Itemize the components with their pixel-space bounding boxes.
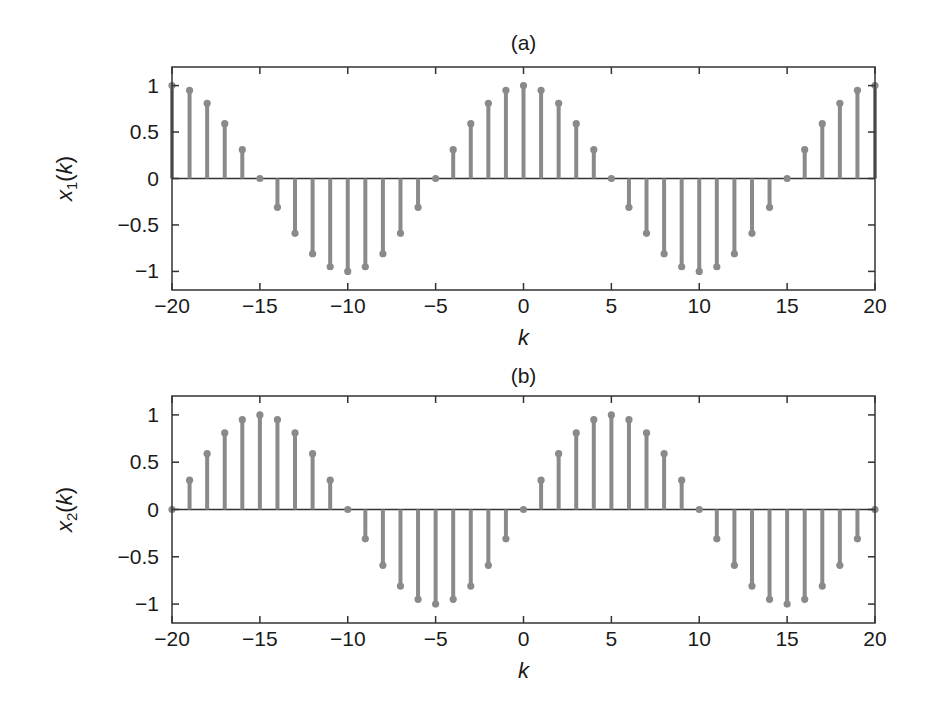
x-tick-label: −5 [424,627,448,650]
stem-marker [309,250,316,257]
stem-marker [836,562,843,569]
stem-marker [520,82,527,89]
y-label-arg: (k) [52,156,77,182]
x-tick-label: 0 [518,294,530,317]
x-tick-label: 20 [863,627,886,650]
stem-marker [291,429,298,436]
stem-marker [291,230,298,237]
stem-marker [309,450,316,457]
stem-marker [748,583,755,590]
stem-marker [327,263,334,270]
stem-marker [731,562,738,569]
stem-marker [573,120,580,127]
stem-marker [414,204,421,211]
stem-marker [678,477,685,484]
y-axis-label: x2(k) [52,487,80,533]
stem-marker [713,263,720,270]
y-tick-label: 1 [147,74,159,97]
stem-marker [537,477,544,484]
y-tick-label: −1 [135,259,159,282]
stem-marker [397,230,404,237]
y-axis-label: x1(k) [52,156,80,202]
y-label-sub: 2 [63,513,80,521]
y-tick-label: 0.5 [130,120,159,143]
x-tick-label: 10 [688,627,711,650]
stem-marker [661,450,668,457]
stem-marker [748,230,755,237]
stem-marker [801,146,808,153]
stem-marker [344,268,351,275]
stem-marker [643,429,650,436]
stem-marker [256,175,263,182]
stem-marker [713,535,720,542]
stem-marker [344,506,351,513]
x-tick-label: 5 [606,294,618,317]
x-tick-label: 20 [863,294,886,317]
stem-marker [432,175,439,182]
y-tick-label: −0.5 [118,545,159,568]
stem-marker [221,429,228,436]
x-tick-label: 0 [518,627,530,650]
x-tick-label: −15 [242,294,278,317]
stem-marker [256,411,263,418]
stem-marker [555,100,562,107]
stem-marker [731,250,738,257]
stem-marker [854,535,861,542]
stem-marker [625,416,632,423]
stem-marker [274,204,281,211]
y-label-paren-close: ) [52,156,77,163]
stem-marker [502,87,509,94]
stem-marker [766,204,773,211]
stem-marker [819,583,826,590]
stem-marker [485,100,492,107]
subplot-a: (a)−20−15−10−50510152010.50−0.5−1kx1(k) [52,31,887,350]
x-tick-label: 10 [688,294,711,317]
stem-marker [362,535,369,542]
stem-marker [502,535,509,542]
stem-marker [573,429,580,436]
y-tick-label: 1 [147,403,159,426]
stem-marker [555,450,562,457]
stem-marker [450,596,457,603]
stem-marker [274,416,281,423]
stem-marker [397,583,404,590]
stem-marker [520,506,527,513]
plot-title: (a) [511,31,537,54]
figure: (a)−20−15−10−50510152010.50−0.5−1kx1(k) … [0,0,932,715]
stem-marker [590,416,597,423]
x-tick-label: 5 [606,627,618,650]
stem-marker [801,596,808,603]
stem-marker [450,146,457,153]
subplot-b: (b)−20−15−10−50510152010.50−0.5−1kx2(k) [52,364,887,683]
stem-marker [590,146,597,153]
stem-marker [625,204,632,211]
stem-marker [485,562,492,569]
x-tick-label: 15 [775,294,798,317]
stem-marker [819,120,826,127]
x-tick-label: −20 [154,627,190,650]
y-tick-label: 0 [147,498,159,521]
y-label-arg: (k) [52,487,77,513]
stem-marker [379,562,386,569]
y-tick-label: −1 [135,592,159,615]
stem-marker [854,87,861,94]
stem-marker [678,263,685,270]
stem-marker [608,175,615,182]
x-axis-label: k [518,325,530,350]
stem-marker [661,250,668,257]
stem-marker [414,596,421,603]
stem-marker [327,477,334,484]
stem-marker [836,100,843,107]
stem-marker [467,583,474,590]
stem-marker [221,120,228,127]
stem-marker [784,600,791,607]
stem-marker [432,600,439,607]
stem-marker [239,146,246,153]
stem-marker [608,411,615,418]
stem-marker [537,87,544,94]
plot-title: (b) [511,364,537,387]
y-label-sub: 1 [63,182,80,190]
stem-marker [766,596,773,603]
stem-marker [239,416,246,423]
stem-marker [696,268,703,275]
